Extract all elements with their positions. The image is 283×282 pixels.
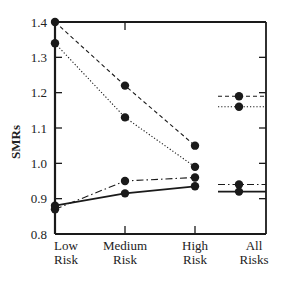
x-category-label: Medium <box>103 238 147 253</box>
series-line-dotted <box>55 43 195 167</box>
x-category-label: All <box>246 238 263 253</box>
x-category-label: Risk <box>54 252 78 267</box>
data-point-marker <box>191 173 199 181</box>
y-axis-title: SMRs <box>8 125 23 159</box>
x-category-label: Risks <box>240 252 269 267</box>
data-point-marker <box>121 189 129 197</box>
data-point-marker <box>121 81 129 89</box>
x-category-label: Risk <box>113 252 137 267</box>
x-category-label: Risk <box>183 252 207 267</box>
axes <box>55 22 266 234</box>
y-tick-label: 0.8 <box>31 227 47 242</box>
data-point-marker <box>235 103 243 111</box>
y-tick-label: 1.1 <box>31 121 47 136</box>
y-tick-label: 1.4 <box>31 15 48 30</box>
data-point-marker <box>51 202 59 210</box>
y-tick-label: 0.9 <box>31 191 47 206</box>
data-point-marker <box>235 92 243 100</box>
smr-chart: 0.80.91.01.11.21.31.4LowRiskMediumRiskHi… <box>0 0 283 282</box>
data-point-marker <box>235 187 243 195</box>
data-point-marker <box>191 141 199 149</box>
y-tick-label: 1.3 <box>31 50 47 65</box>
series-lines <box>51 18 266 214</box>
y-tick-label: 1.2 <box>31 85 47 100</box>
data-point-marker <box>191 163 199 171</box>
x-category-label: Low <box>54 238 78 253</box>
axis-labels: 0.80.91.01.11.21.31.4LowRiskMediumRiskHi… <box>8 15 268 268</box>
data-point-marker <box>51 39 59 47</box>
data-point-marker <box>121 113 129 121</box>
data-point-marker <box>121 177 129 185</box>
data-point-marker <box>191 182 199 190</box>
x-category-label: High <box>182 238 209 253</box>
data-point-marker <box>51 18 59 26</box>
y-tick-label: 1.0 <box>31 156 47 171</box>
